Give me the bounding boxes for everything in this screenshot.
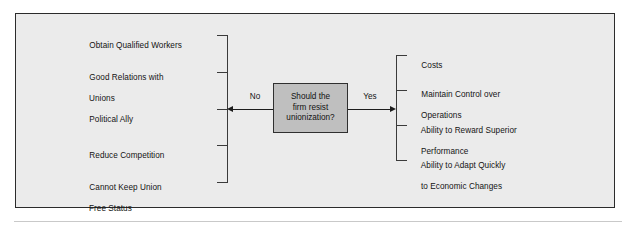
yes-branch-label: Yes: [352, 92, 388, 102]
bottom-divider-rule: [14, 221, 622, 222]
yes-bracket-tick-4: [396, 160, 407, 161]
no-branch-item-5-line2: Free Status: [80, 204, 215, 215]
yes-bracket-tick-3: [396, 125, 407, 126]
no-branch-item-2-line2: Unions: [80, 94, 215, 105]
no-branch-item-1-line1: Obtain Qualified Workers: [89, 41, 182, 50]
no-branch-item-5-line1: Cannot Keep Union: [89, 183, 161, 192]
yes-branch-item-3-line1: Ability to Reward Superior: [421, 126, 517, 135]
yes-branch-item-4: Ability to Adapt Quickly to Economic Cha…: [412, 150, 592, 213]
no-connector-arrowhead: [227, 106, 233, 112]
no-bracket-tick-2: [217, 72, 228, 73]
yes-branch-item-2-line1: Maintain Control over: [421, 90, 500, 99]
no-branch-item-1: Obtain Qualified Workers: [80, 30, 215, 62]
no-branch-item-3-line1: Political Ally: [89, 115, 133, 124]
yes-bracket-tick-2: [396, 90, 407, 91]
no-connector-line: [233, 109, 273, 110]
no-branch-item-3: Political Ally: [80, 104, 215, 136]
no-branch-item-4: Reduce Competition: [80, 140, 215, 172]
no-bracket-tick-5: [217, 182, 228, 183]
yes-bracket-tick-1: [396, 55, 407, 56]
yes-connector-line: [348, 109, 390, 110]
no-branch-label: No: [238, 92, 272, 102]
yes-branch-item-1: Costs: [412, 50, 592, 82]
no-bracket-tick-1: [217, 35, 228, 36]
no-branch-item-4-line1: Reduce Competition: [89, 151, 164, 160]
yes-branch-item-4-line1: Ability to Adapt Quickly: [421, 161, 505, 170]
no-bracket-tick-4: [217, 145, 228, 146]
decision-box[interactable]: Should the firm resist unionization?: [273, 83, 348, 133]
yes-branch-item-4-line2: to Economic Changes: [412, 182, 592, 193]
figure-frame: Obtain Qualified Workers Good Relations …: [15, 13, 615, 208]
yes-bracket-spine: [396, 55, 397, 161]
decision-box-text: Should the firm resist unionization?: [286, 92, 334, 124]
no-branch-item-2-line1: Good Relations with: [89, 73, 163, 82]
yes-branch-item-1-line1: Costs: [421, 61, 442, 70]
